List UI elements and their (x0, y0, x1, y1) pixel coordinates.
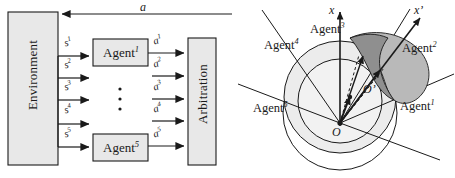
x-prime-axis-label-prime: ’ (419, 3, 423, 17)
agent-region-label-3: Agent3 (310, 22, 345, 36)
origin-O-prime-label: O’ (363, 83, 376, 95)
agent-sector-geometry-diagram: x x’ O O’ Agent1 Agent2 Agent3 Agent4 Ag… (232, 0, 455, 178)
agent-region-superscript-4: 4 (295, 37, 299, 46)
agent-region-label-2: Agent2 (402, 41, 437, 55)
ellipsis-dot (118, 87, 121, 90)
agent-region-superscript-1: 1 (431, 98, 435, 107)
arbitration-block-label: Arbitration (196, 64, 209, 124)
agent-region-base-4: Agent (264, 38, 295, 52)
figure-root: Environment Arbitration Agent1 Agent5 s1… (0, 0, 455, 178)
origin-O-prime-mark-2: ’ (372, 82, 376, 96)
agent-1-base: Agent (103, 45, 135, 60)
agent-1-block-label: Agent1 (103, 45, 139, 59)
x-axis-label-text: x (329, 3, 334, 17)
multi-agent-architecture-block-diagram: Environment Arbitration Agent1 Agent5 s1… (0, 0, 232, 178)
x-axis-label: x (329, 4, 334, 16)
agent-region-base-1: Agent (400, 99, 431, 113)
agent-region-superscript-5: 5 (284, 100, 288, 109)
agent-region-base-5: Agent (253, 101, 284, 115)
feedback-signal-label: a (140, 1, 146, 13)
agent-region-label-1: Agent1 (400, 99, 435, 113)
agent-5-superscript: 5 (135, 139, 139, 149)
agent-5-block-label: Agent5 (103, 140, 139, 154)
agent-1-superscript: 1 (135, 44, 139, 54)
agent-5-base: Agent (103, 140, 135, 155)
ellipsis-dot (118, 107, 121, 110)
agent-region-label-4: Agent4 (264, 38, 299, 52)
origin-O-prime-dot (348, 95, 352, 99)
environment-block-label: Environment (26, 40, 39, 110)
agent-region-base-3: Agent (310, 22, 341, 36)
agent-region-superscript-2: 2 (433, 40, 437, 49)
origin-O-label: O (332, 126, 341, 138)
origin-O-prime-text: O (363, 82, 372, 96)
feedback-signal-base: a (140, 0, 146, 14)
x-prime-axis-label: x’ (414, 4, 423, 16)
ellipsis-dot (118, 97, 121, 100)
agent-region-base-2: Agent (402, 41, 433, 55)
agent-region-label-5: Agent5 (253, 101, 288, 115)
agent-region-superscript-3: 3 (341, 21, 345, 30)
origin-O-text: O (332, 125, 341, 139)
